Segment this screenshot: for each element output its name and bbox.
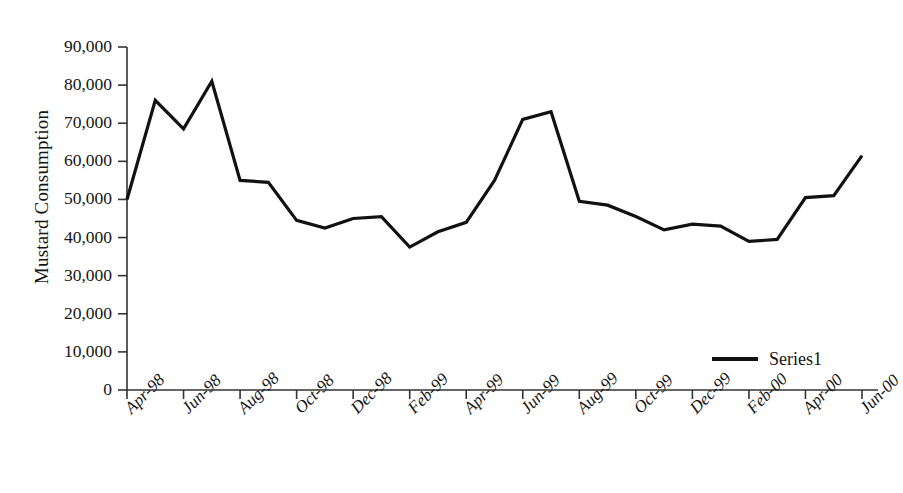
x-axis-tick-label: Jun-99	[517, 371, 565, 419]
x-axis-tick-label: Aug-99	[573, 369, 623, 419]
x-axis-tick-label: Feb-99	[404, 369, 453, 418]
x-axis-tick-label: Apr-99	[460, 370, 508, 418]
x-axis-tick-label: Apr-00	[799, 370, 847, 418]
x-axis-tick-label: Dec-99	[686, 369, 736, 419]
x-axis-tick-label: Jun-98	[178, 371, 226, 419]
x-axis-tick-label: Jun-00	[856, 371, 903, 419]
chart-legend: Series1	[712, 348, 822, 370]
x-axis-tick-label: Dec-98	[347, 369, 397, 419]
x-axis-tick-label: Feb-00	[743, 369, 792, 418]
x-axis-tick-label: Oct-98	[291, 371, 339, 419]
x-axis-tick-label: Apr-98	[121, 370, 169, 418]
x-axis-tick-label: Aug-98	[234, 369, 284, 419]
x-axis-tick-label: Oct-99	[630, 371, 678, 419]
legend-label-series1: Series1	[769, 349, 822, 370]
legend-line-swatch	[712, 357, 758, 361]
